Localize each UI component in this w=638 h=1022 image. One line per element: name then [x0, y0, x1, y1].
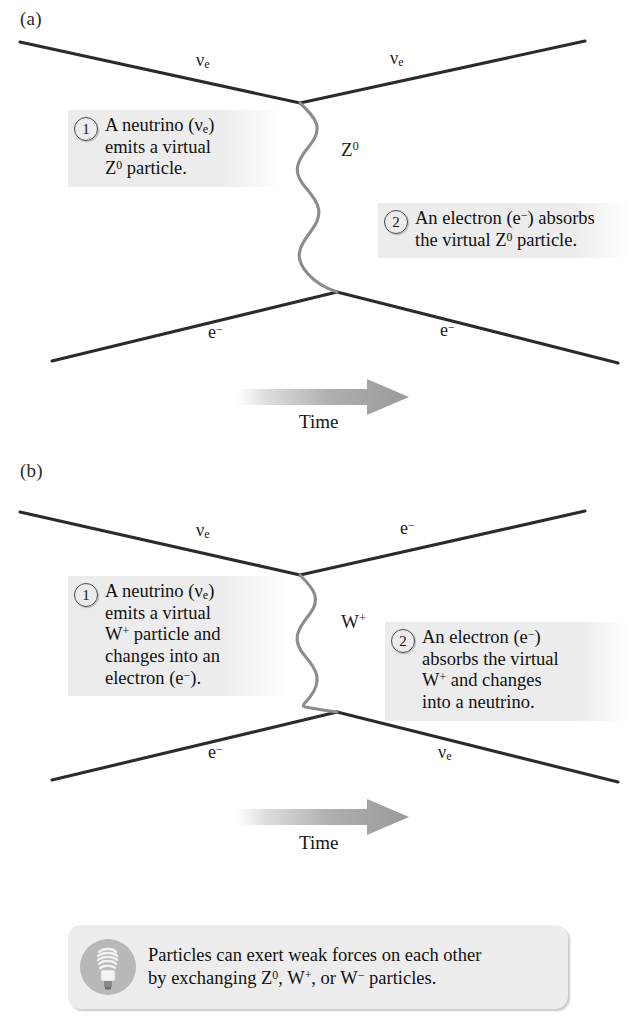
- particle-label-nu-in-b: νe: [196, 520, 210, 542]
- lightbulb-glyph: [91, 944, 125, 990]
- particle-label-e-out-a: e−: [440, 320, 455, 341]
- z-boson-wave-a: [297, 103, 337, 292]
- callout-b-1-number: 1: [74, 583, 98, 607]
- particle-label-e-in-b: e−: [208, 742, 223, 763]
- callout-a-2-number: 2: [384, 210, 408, 234]
- nu-in-line-b: [20, 512, 300, 575]
- time-label-b: Time: [299, 832, 338, 854]
- e-out-line-a: [337, 292, 618, 363]
- particle-label-nu-in-a: νe: [196, 50, 210, 72]
- time-label-a: Time: [299, 411, 338, 433]
- callout-a-1: 1 A neutrino (νe)emits a virtualZ0 parti…: [68, 110, 283, 187]
- w-boson-wave-b: [297, 575, 337, 712]
- particle-label-e-in-a: e−: [208, 322, 223, 343]
- e-in-line-a: [52, 292, 337, 361]
- callout-b-2-number: 2: [391, 629, 415, 653]
- footer-note-text: Particles can exert weak forces on each …: [148, 944, 481, 989]
- footer-note: Particles can exert weak forces on each …: [68, 925, 568, 1009]
- nu-in-line-a: [20, 42, 300, 103]
- callout-b-2: 2 An electron (e−)absorbs the virtualW+ …: [385, 622, 630, 721]
- lightbulb-icon: [80, 939, 136, 995]
- callout-a-2-text: An electron (e−) absorbsthe virtual Z0 p…: [415, 208, 595, 251]
- particle-label-w-boson-b: W+: [341, 611, 366, 633]
- particle-label-z-boson-a: Z0: [341, 139, 359, 161]
- particle-label-e-out-b: e−: [400, 518, 415, 539]
- particle-label-nu-out-a: νe: [390, 48, 404, 70]
- callout-a-1-text: A neutrino (νe)emits a virtualZ0 particl…: [105, 115, 214, 180]
- nu-out-line-b: [337, 712, 618, 782]
- e-in-line-b: [52, 712, 337, 780]
- callout-a-2: 2 An electron (e−) absorbsthe virtual Z0…: [378, 203, 630, 258]
- e-out-line-b: [300, 511, 585, 575]
- callout-b-2-text: An electron (e−)absorbs the virtualW+ an…: [422, 627, 559, 714]
- panel-b: (b) νe e− e− νe W+ 1 A neutrino (νe)emit…: [0, 450, 638, 910]
- callout-a-1-number: 1: [74, 117, 98, 141]
- callout-b-1-text: A neutrino (νe)emits a virtualW+ particl…: [105, 581, 221, 689]
- nu-out-line-a: [300, 41, 585, 103]
- particle-label-nu-out-b: νe: [438, 742, 452, 764]
- callout-b-1: 1 A neutrino (νe)emits a virtualW+ parti…: [68, 576, 286, 696]
- panel-a: (a) νe νe e− e− Z0 1 A neutrino (νe)emit…: [0, 0, 638, 450]
